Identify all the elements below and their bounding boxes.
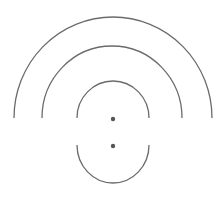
lower-dot — [111, 144, 115, 148]
diagram-canvas — [0, 0, 224, 197]
arc-diagram — [0, 0, 224, 197]
dot-group — [111, 117, 115, 148]
inner-top-arc — [77, 81, 149, 118]
inner-bottom-arc — [77, 145, 149, 183]
middle-arc — [42, 46, 182, 118]
upper-dot — [111, 117, 115, 121]
arc-group — [14, 17, 212, 183]
